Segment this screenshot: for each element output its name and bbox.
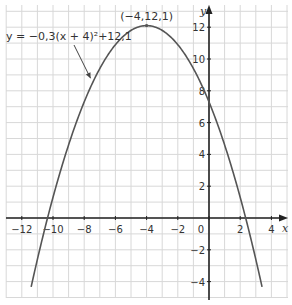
x-tick-label: 0	[198, 224, 204, 235]
y-tick-label: −4	[190, 277, 205, 288]
parabola-chart: xy −12−10−8−6−4−2024 −4−224681012 (−4,12…	[0, 0, 292, 305]
y-tick-label: 6	[199, 118, 205, 129]
axes: xy	[6, 5, 289, 300]
x-tick-label: 2	[237, 224, 243, 235]
y-axis-label: y	[199, 5, 207, 18]
y-tick-label: 2	[199, 181, 205, 192]
annotations: (−4,12,1)y = −0,3(x + 4)²+12,1	[6, 10, 173, 79]
x-tick-label: −6	[108, 224, 123, 235]
equation-label: y = −0,3(x + 4)²+12,1	[6, 30, 132, 43]
equation-arrow	[74, 45, 91, 78]
y-tick-label: −2	[190, 245, 205, 256]
x-tick-label: −2	[170, 224, 185, 235]
vertex-point	[145, 24, 148, 27]
x-tick-label: −8	[77, 224, 92, 235]
y-tick-label: 12	[192, 22, 205, 33]
x-axis-label: x	[282, 222, 289, 235]
grid	[6, 5, 288, 298]
y-tick-label: 10	[192, 54, 205, 65]
x-tick-labels: −12−10−8−6−4−2024	[11, 216, 274, 235]
vertex-label: (−4,12,1)	[120, 10, 173, 23]
y-axis-arrow-icon	[206, 5, 213, 14]
x-tick-label: 4	[268, 224, 274, 235]
y-tick-label: 4	[199, 149, 205, 160]
x-tick-label: −12	[11, 224, 32, 235]
x-tick-label: −4	[139, 224, 154, 235]
